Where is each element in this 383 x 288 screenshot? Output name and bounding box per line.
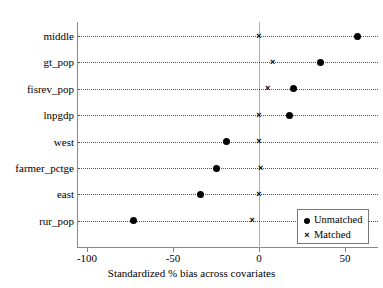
chart-legend: Unmatched × Matched [297,209,369,244]
marker-unmatched-middle [354,33,361,40]
legend-label-matched: Matched [312,227,351,242]
marker-matched-farmer_pctge [257,165,264,172]
row-gridline [78,115,378,116]
marker-unmatched-west [223,138,230,145]
marker-matched-east [256,191,263,198]
x-axis-title: Standardized % bias across covariates [0,266,383,280]
row-gridline [78,36,378,37]
x-axis-line [77,247,378,248]
marker-unmatched-gt_pop [317,59,324,66]
legend-label-unmatched: Unmatched [312,212,362,227]
category-label-gt_pop: gt_pop [43,56,74,68]
marker-unmatched-east [197,191,204,198]
marker-matched-lnpgdp [256,112,263,119]
row-gridline [78,194,378,195]
marker-matched-fisrev_pop [264,85,271,92]
cross-x-icon: × [302,227,312,243]
category-label-fisrev_pop: fisrev_pop [27,83,74,95]
legend-entry-unmatched: Unmatched [302,212,365,227]
marker-unmatched-fisrev_pop [290,85,297,92]
covariate-balance-plot: middlegt_popfisrev_poplnpgdpwestfarmer_p… [0,0,383,288]
marker-matched-west [256,138,263,145]
x-tick-label: 50 [325,252,365,265]
marker-unmatched-farmer_pctge [213,165,220,172]
category-label-east: east [57,188,74,200]
category-label-farmer_pctge: farmer_pctge [15,162,74,174]
category-label-west: west [54,136,74,148]
marker-matched-middle [256,33,263,40]
marker-matched-rur_pop [249,217,256,224]
x-tick-label: 0 [239,252,279,265]
y-axis-line [77,22,78,248]
marker-matched-gt_pop [269,59,276,66]
zero-reference-line [259,22,260,248]
legend-entry-matched: × Matched [302,227,365,242]
category-label-middle: middle [43,30,74,42]
x-tick-label: -100 [67,252,107,265]
filled-circle-icon [302,212,312,227]
row-gridline [78,168,378,169]
row-gridline [78,62,378,63]
marker-unmatched-lnpgdp [286,112,293,119]
row-gridline [78,89,378,90]
category-label-rur_pop: rur_pop [39,215,74,227]
x-tick-label: -50 [153,252,193,265]
category-label-lnpgdp: lnpgdp [43,109,74,121]
marker-unmatched-rur_pop [130,217,137,224]
